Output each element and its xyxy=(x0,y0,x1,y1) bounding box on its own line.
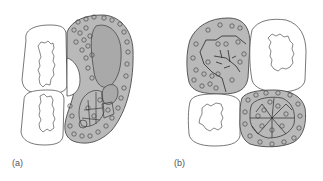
panel-b-figure xyxy=(187,18,306,147)
panel-a-label: (a) xyxy=(12,158,23,168)
inner-lobe xyxy=(91,25,121,87)
cell-cavity-lower xyxy=(39,94,55,132)
panel-b-label: (b) xyxy=(174,158,185,168)
gray-cell-top-left xyxy=(187,18,250,94)
diagram-canvas xyxy=(0,0,323,181)
panel-a-figure xyxy=(21,15,133,145)
